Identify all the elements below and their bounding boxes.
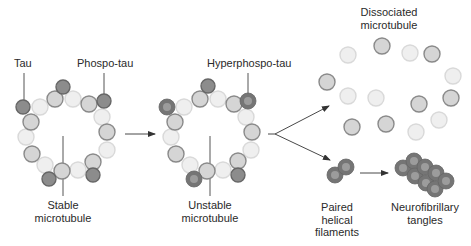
tubulin-subunit-light [243, 142, 259, 158]
tubulin-subunit-dark [81, 96, 97, 112]
hyperphospho-core [421, 163, 429, 171]
tubulin-subunit-light [65, 91, 81, 107]
hyperphospho-core [431, 185, 439, 193]
hyperphospho-core [442, 177, 450, 185]
tubulin-subunit-light [445, 68, 461, 84]
label-paired-helical-filaments: Paired helical filaments [309, 201, 365, 239]
label-line: Paired [309, 201, 365, 214]
tubulin-subunit-light [94, 109, 110, 125]
tubulin-subunit-light [176, 99, 192, 115]
tubulin-subunit-dark [226, 96, 242, 112]
tubulin-subunit-dark [23, 114, 39, 130]
tau-molecule [231, 168, 245, 182]
tau-molecule [42, 172, 56, 186]
tubulin-subunit-light [340, 88, 356, 104]
label-line: Dissociated [359, 6, 419, 19]
tubulin-subunit-light [215, 162, 231, 178]
hyperphospho-core [432, 169, 440, 177]
tau-molecule [16, 100, 30, 114]
tubulin-subunit-light [210, 91, 226, 107]
tubulin-subunit-dark [24, 146, 40, 162]
label-hyperphospho-tau: Hyperphospo-tau [207, 57, 291, 70]
tubulin-subunit-dark [167, 114, 183, 130]
tubulin-subunit-dark [424, 46, 440, 62]
hyperphospho-core [411, 172, 419, 180]
hyperphospho-core [342, 163, 350, 171]
tubulin-subunit-dark [344, 119, 360, 135]
hyperphospho-core [399, 164, 407, 172]
tubulin-subunit-light [408, 124, 424, 140]
tubulin-subunit-light [340, 47, 356, 63]
tubulin-subunit-light [32, 99, 48, 115]
label-dissociated-microtubule: Dissociated microtubule [359, 6, 419, 31]
hyperphospho-core [244, 97, 252, 105]
tau-molecule [56, 80, 70, 94]
label-line: microtubule [359, 19, 419, 32]
tubulin-subunit-dark [378, 116, 394, 132]
label-line: Stable [33, 199, 93, 212]
label-stable-microtubule: Stable microtubule [33, 199, 93, 224]
tubulin-subunit-light [99, 142, 115, 158]
arrow-right-icon [275, 134, 330, 160]
tubulin-subunit-light [238, 109, 254, 125]
label-line: filaments [309, 226, 365, 239]
hyperphospho-core [163, 103, 171, 111]
label-line: Neurofibrillary [385, 201, 465, 214]
tubulin-subunit-dark [443, 90, 459, 106]
label-line: Unstable [180, 199, 240, 212]
neurofibrillary-tangles-shape [395, 153, 454, 197]
label-line: helical [309, 214, 365, 227]
tubulin-subunit-light [368, 90, 384, 106]
label-neurofibrillary-tangles: Neurofibrillary tangles [385, 201, 465, 226]
hyperphospho-core [190, 175, 198, 183]
tubulin-subunit-dark [411, 96, 427, 112]
label-phospho-tau: Phospo-tau [77, 57, 133, 70]
unstable-microtubule-ring [159, 79, 260, 187]
tubulin-subunit-light [18, 129, 34, 145]
hyperphospho-core [331, 171, 339, 179]
tubulin-subunit-dark [99, 124, 115, 140]
label-line: microtubule [180, 212, 240, 225]
tubulin-subunit-dark [244, 124, 260, 140]
tubulin-subunit-dark [54, 163, 70, 179]
tubulin-subunit-dark [168, 146, 184, 162]
tubulin-subunit-dark [230, 153, 246, 169]
tubulin-subunit-dark [192, 91, 208, 107]
tubulin-subunit-light [70, 162, 86, 178]
label-unstable-microtubule: Unstable microtubule [180, 199, 240, 224]
tubulin-subunit-light [182, 157, 198, 173]
stable-microtubule-ring [16, 80, 115, 186]
tubulin-subunit-dark [319, 74, 335, 90]
arrow-right-icon [275, 106, 329, 134]
tau-molecule [97, 94, 111, 108]
tubulin-subunit-light [431, 112, 447, 128]
tubulin-subunit-light [37, 157, 53, 173]
paired-helical-filaments-shape [327, 159, 354, 183]
label-tau: Tau [14, 57, 32, 70]
tubulin-subunit-dark [374, 38, 390, 54]
dissociated-microtubule-cluster [319, 38, 461, 140]
tubulin-subunit-light [402, 45, 418, 61]
tubulin-subunit-light [163, 129, 179, 145]
tau-molecule [86, 168, 100, 182]
tau-molecule [201, 79, 215, 93]
label-line: microtubule [33, 212, 93, 225]
hyperphospho-core [410, 157, 418, 165]
label-line: tangles [385, 214, 465, 227]
